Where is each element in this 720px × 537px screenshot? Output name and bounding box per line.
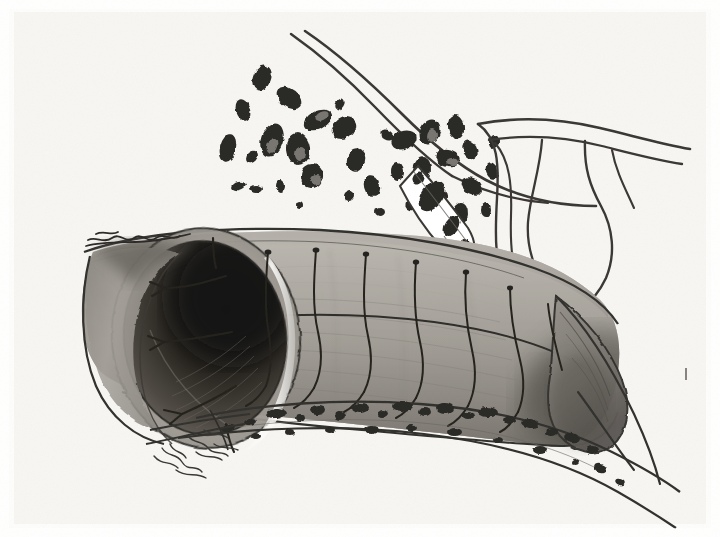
figure-container: Sagittal section through nasal cavity sh… [0, 0, 720, 537]
anatomical-illustration [0, 0, 720, 537]
tick-mark-right [685, 368, 687, 380]
